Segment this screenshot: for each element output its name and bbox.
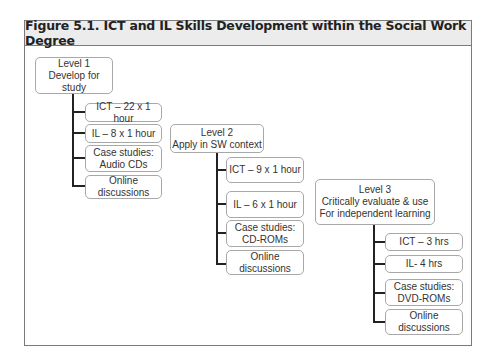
level-1-branch	[72, 111, 85, 113]
level-3-item-case-studies: Case studies: DVD-ROMs	[385, 279, 463, 306]
level-2-branch	[216, 169, 226, 171]
figure-title: Figure 5.1. ICT and IL Skills Developmen…	[25, 21, 471, 46]
level-1-item-case-studies: Case studies: Audio CDs	[85, 145, 162, 172]
level-2-heading: Level 2 Apply in SW context	[170, 124, 264, 153]
level-1-branch	[72, 185, 85, 187]
level-2-item-case-studies: Case studies: CD-ROMs	[226, 220, 304, 247]
level-1-heading: Level 1 Develop for study	[35, 57, 113, 94]
level-2-branch	[216, 263, 226, 265]
level-3-branch	[373, 241, 385, 243]
level-2-item-ict: ICT – 9 x 1 hour	[226, 157, 304, 183]
level-3-item-il: IL- 4 hrs	[385, 255, 463, 273]
level-3-item-ict: ICT – 3 hrs	[385, 233, 463, 251]
level-2-item-il: IL – 6 x 1 hour	[226, 191, 304, 218]
level-1-connector	[72, 94, 74, 187]
level-3-connector	[373, 225, 375, 323]
level-1-branch	[72, 157, 85, 159]
level-3-heading: Level 3 Critically evaluate & use For in…	[315, 179, 435, 225]
level-3-branch	[373, 292, 385, 294]
level-3-branch	[373, 263, 385, 265]
level-1-branch	[72, 132, 85, 134]
level-2-branch	[216, 203, 226, 205]
level-1-item-il: IL – 8 x 1 hour	[85, 124, 162, 143]
level-2-item-online: Online discussions	[226, 250, 304, 275]
level-1-item-online: Online discussions	[85, 175, 162, 199]
level-3-branch	[373, 321, 385, 323]
level-1-item-ict: ICT – 22 x 1 hour	[85, 103, 162, 122]
level-2-branch	[216, 232, 226, 234]
level-3-item-online: Online discussions	[385, 309, 463, 335]
